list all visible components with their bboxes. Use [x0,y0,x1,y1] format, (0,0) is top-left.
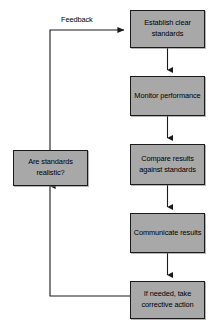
node-if-needed-take-corrective-action[interactable]: If needed, take corrective action [130,281,205,319]
node-establish-clear-standards[interactable]: Establish clear standards [130,10,205,48]
edge-label-feedback: Feedback [61,15,93,24]
flowchart-diagram: Establish clear standards Monitor perfor… [0,0,213,330]
node-if-needed-take-corrective-action-label: If needed, take corrective action [133,289,202,310]
node-communicate-results[interactable]: Communicate results [130,213,205,253]
connector-realistic-to-establish [50,30,124,150]
node-monitor-performance-label: Monitor performance [133,91,202,102]
node-establish-clear-standards-label: Establish clear standards [133,18,202,39]
node-monitor-performance[interactable]: Monitor performance [130,76,205,116]
node-are-standards-realistic[interactable]: Are standards realistic? [13,150,88,186]
node-compare-results-against-standards-label: Compare results against standards [133,154,202,175]
node-are-standards-realistic-label: Are standards realistic? [16,157,85,178]
node-communicate-results-label: Communicate results [133,228,202,239]
node-compare-results-against-standards[interactable]: Compare results against standards [130,144,205,185]
connector-corrective-to-realistic [50,186,131,296]
